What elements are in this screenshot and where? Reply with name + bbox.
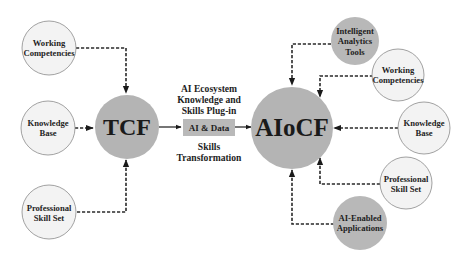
- connector-professional-skill-set-to-tcf: [77, 160, 126, 212]
- node-label: Professional: [384, 174, 429, 184]
- node-left-professional-skill-set: Professional Skill Set: [22, 185, 76, 239]
- hub-label: TCF: [103, 114, 151, 140]
- node-label: Competencies: [372, 75, 424, 85]
- hub-tcf: TCF: [95, 95, 159, 159]
- node-label: Competencies: [23, 48, 75, 58]
- caption-line: Skills Plug-in: [182, 105, 237, 116]
- node-label: Knowledge: [403, 118, 444, 128]
- node-right-working-competencies: Working Competencies: [372, 49, 424, 101]
- connector-working-competencies-to-aiocf: [320, 76, 373, 97]
- node-label: Working: [33, 38, 66, 48]
- node-left-knowledge-base: Knowledge Base: [21, 101, 75, 155]
- connector-ai-enabled-applications-to-aiocf: [292, 170, 334, 224]
- caption-line: Transformation: [177, 152, 243, 163]
- node-label: Base: [39, 128, 56, 138]
- connector-working-competencies-to-tcf: [76, 48, 126, 93]
- caption-line: AI Ecosystem: [181, 83, 237, 94]
- hub-aiocf: AIoCF: [251, 87, 333, 169]
- caption-line: Knowledge and: [177, 94, 241, 105]
- node-right-intelligent-analytics-tools: Intelligent Analytics Tools: [331, 17, 379, 65]
- node-label: Working: [382, 65, 415, 75]
- ai-data-label: AI & Data: [189, 123, 230, 133]
- node-label: Skill Set: [34, 213, 64, 223]
- tcf-to-aiocf-diagram: Working Competencies Knowledge Base Prof…: [0, 0, 468, 261]
- node-right-knowledge-base: Knowledge Base: [398, 102, 450, 154]
- caption-line: Skills: [198, 141, 221, 152]
- node-label: Professional: [27, 203, 72, 213]
- node-label: Analytics: [338, 36, 373, 46]
- connector-professional-skill-set-to-aiocf: [320, 158, 380, 184]
- hub-label: AIoCF: [255, 114, 329, 141]
- node-label: Applications: [337, 223, 384, 233]
- node-label: AI-Enabled: [339, 213, 382, 223]
- node-label: Skill Set: [391, 184, 421, 194]
- node-label: Intelligent: [336, 26, 374, 36]
- node-right-ai-enabled-applications: AI-Enabled Applications: [333, 196, 387, 250]
- connector-intelligent-analytics-to-aiocf: [292, 44, 331, 85]
- node-label: Knowledge: [27, 118, 68, 128]
- node-label: Base: [415, 128, 432, 138]
- node-label: Tools: [345, 47, 365, 57]
- middle-transformation: AI Ecosystem Knowledge and Skills Plug-i…: [177, 83, 243, 163]
- node-left-working-competencies: Working Competencies: [22, 21, 76, 75]
- node-right-professional-skill-set: Professional Skill Set: [380, 157, 432, 209]
